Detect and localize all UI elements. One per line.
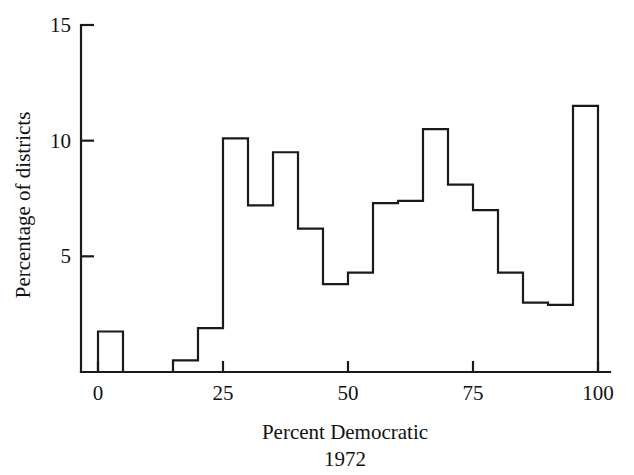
x-tick-label: 100: [582, 381, 614, 405]
x-tick-label: 0: [93, 381, 104, 405]
x-tick-label: 50: [338, 381, 359, 405]
histogram-figure: 51015 0255075100 Percent Democratic 1972…: [0, 0, 634, 475]
y-axis-tick-labels: 51015: [50, 13, 71, 268]
y-axis-title: Percentage of districts: [11, 112, 35, 299]
histogram-outline: [98, 106, 598, 372]
y-tick-label: 15: [50, 13, 71, 37]
x-tick-label: 75: [463, 381, 484, 405]
x-axis-subtitle: 1972: [324, 447, 366, 471]
x-tick-label: 25: [213, 381, 234, 405]
y-tick-label: 10: [50, 129, 71, 153]
x-axis-title: Percent Democratic: [262, 420, 428, 444]
y-tick-label: 5: [61, 244, 72, 268]
y-axis-ticks: [81, 25, 94, 256]
x-axis-tick-labels: 0255075100: [93, 381, 614, 405]
plot-area: 51015 0255075100 Percent Democratic 1972…: [0, 0, 634, 475]
